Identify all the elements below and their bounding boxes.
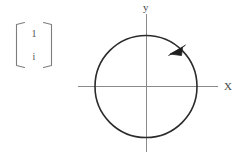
x-axis-label: X bbox=[224, 80, 232, 92]
y-axis-label: y bbox=[143, 1, 149, 13]
vector-entry-1: i bbox=[33, 51, 36, 62]
figure-canvas: 1 i y X bbox=[0, 0, 244, 158]
column-vector: 1 i bbox=[17, 23, 52, 68]
left-bracket-icon bbox=[17, 23, 25, 68]
complex-plane-unit-circle-figure: 1 i y X bbox=[0, 0, 244, 158]
arrowhead-fill-icon bbox=[170, 48, 183, 56]
vector-entry-0: 1 bbox=[32, 28, 37, 39]
right-bracket-icon bbox=[44, 23, 52, 68]
